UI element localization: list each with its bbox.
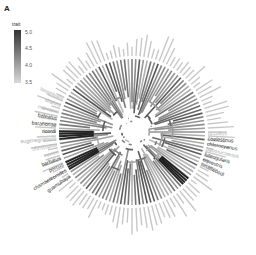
tree-branch-dark xyxy=(59,133,94,134)
tip-label-placeholder xyxy=(113,206,116,222)
tip-label-placeholder xyxy=(86,61,91,69)
tip-label-placeholder xyxy=(127,43,128,56)
tip-label-placeholder xyxy=(88,200,97,218)
tip-label-placeholder xyxy=(207,118,221,120)
tip-label-placeholder xyxy=(98,201,101,208)
tip-label-placeholder xyxy=(97,40,105,61)
tree-branch xyxy=(135,116,140,118)
tip-label-placeholder xyxy=(188,183,199,193)
tree-branch xyxy=(140,140,142,142)
tip-label-placeholder xyxy=(122,208,124,225)
tree-branch xyxy=(128,59,131,109)
tip-label-placeholder xyxy=(148,41,152,58)
tip-label-placeholder xyxy=(208,127,234,128)
tip-label-placeholder xyxy=(73,191,85,205)
tip-label-placeholder xyxy=(206,112,224,116)
tip-label-placeholder xyxy=(144,207,147,228)
tip-label-placeholder xyxy=(200,87,221,98)
tip-label-placeholder xyxy=(136,208,137,232)
tip-label-placeholder xyxy=(203,101,212,104)
tip-label-placeholder xyxy=(208,122,229,124)
tip-label-placeholder xyxy=(63,70,75,81)
tip-label-placeholder xyxy=(110,51,112,59)
tip-label-placeholder xyxy=(201,96,212,101)
tip-label-placeholder xyxy=(91,41,101,63)
tip-label-placeholder xyxy=(183,188,194,200)
tree-branch xyxy=(122,140,125,143)
tree-branch xyxy=(120,125,122,130)
tree-branch xyxy=(168,128,205,130)
tree-branch xyxy=(149,118,152,124)
tip-label-placeholder xyxy=(193,83,199,88)
tip-label-placeholder xyxy=(66,186,78,198)
tip-label-placeholder xyxy=(67,79,73,84)
tip-label-placeholder xyxy=(79,66,85,73)
tip-label-placeholder xyxy=(155,50,158,60)
tip-label-placeholder xyxy=(140,208,142,226)
tip-label-placeholder xyxy=(186,186,197,197)
tree-branch xyxy=(125,140,129,142)
tree-branch xyxy=(115,143,117,145)
tree-branch xyxy=(134,175,136,205)
tip-label-placeholder xyxy=(69,183,75,188)
tree-branch xyxy=(126,148,133,149)
tip-label-placeholder xyxy=(127,208,128,223)
tree-branch xyxy=(122,133,123,136)
tip-label-placeholder xyxy=(86,42,97,64)
tip-label: ricordi xyxy=(42,128,56,134)
tip-label-placeholder xyxy=(70,188,81,200)
tip-label-placeholder xyxy=(159,36,168,61)
tip-label-placeholder xyxy=(110,205,113,215)
tip-label-placeholder xyxy=(140,38,142,57)
tip-label-placeholder xyxy=(170,198,175,207)
tip-label-placeholder xyxy=(117,207,120,228)
tree-branch xyxy=(98,113,101,119)
tip-label-placeholder xyxy=(66,66,78,78)
tip-label-placeholder xyxy=(78,57,88,70)
tip-label-placeholder xyxy=(136,39,137,56)
tip-label-placeholder xyxy=(144,35,148,57)
tip-label-placeholder xyxy=(102,203,105,210)
tip-label-placeholder xyxy=(170,57,175,66)
tip-label-placeholder xyxy=(152,49,155,59)
tree-branch xyxy=(123,136,124,137)
phylogenetic-tree: longitibialisstrahmimarcanoibaleatusbara… xyxy=(0,0,256,255)
tip-label-placeholder xyxy=(196,80,213,91)
tip-label-placeholder xyxy=(123,49,124,56)
tip-label-placeholder xyxy=(106,53,108,60)
tip-label-placeholder xyxy=(105,204,108,214)
tip-label-placeholder xyxy=(114,45,117,58)
tip-label-placeholder xyxy=(69,62,82,76)
tip-label-placeholder xyxy=(191,180,196,184)
tip-label-placeholder xyxy=(177,62,183,70)
tree-branch xyxy=(172,123,173,138)
tip-label-placeholder xyxy=(163,39,174,63)
tree-branch xyxy=(154,158,155,159)
tree-branch xyxy=(59,128,100,130)
tip-label-placeholder xyxy=(119,47,121,57)
tree-branch xyxy=(144,139,145,140)
